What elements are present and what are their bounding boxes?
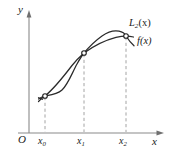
y-axis-arrowhead [27,10,32,18]
node-label-x1-sub: 1 [81,140,84,147]
node-marker-x2 [124,34,129,39]
curve-label-f: f(x) [137,36,152,47]
node-label-x2-sub: 2 [123,140,126,147]
node-marker-x0 [43,94,48,99]
curve-label-l2-base: L [129,17,135,28]
x-axis-arrowhead [157,131,165,136]
node-marker-x1 [82,51,87,56]
node-label-x1: x1 [77,136,85,146]
y-axis-label: y [18,4,23,15]
node-label-x0: x0 [38,136,46,146]
curve-label-l2-sub: 2 [135,22,139,30]
node-label-x0-sub: 0 [42,140,45,147]
curve-label-l2-suffix: (x) [138,17,150,28]
origin-label: O [18,134,26,145]
node-label-x2: x2 [119,136,127,146]
curve-l2 [39,36,134,102]
interpolation-figure: y x O x0 x1 x2 L2(x) f(x) [0,0,171,160]
node-markers-group [43,34,129,99]
y-axis-group [27,10,32,133]
curve-label-l2: L2(x) [129,18,151,29]
x-axis-label: x [152,136,157,147]
